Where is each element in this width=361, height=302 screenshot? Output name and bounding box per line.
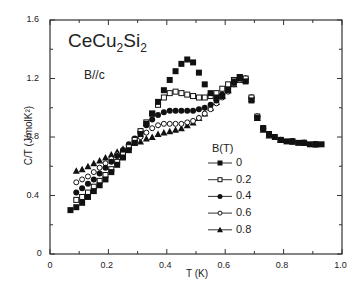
y-tick-label: 0.4 xyxy=(26,190,39,200)
series-0 xyxy=(67,56,324,213)
y-tick-label: 0.8 xyxy=(26,131,39,141)
legend-item-label: 0.6 xyxy=(236,206,251,218)
x-tick-label: 0.8 xyxy=(276,260,289,270)
x-axis-label: T (K) xyxy=(186,268,208,279)
data-points xyxy=(67,56,324,213)
x-tick-label: 1.0 xyxy=(334,260,347,270)
field-direction-annotation: B//c xyxy=(84,68,105,82)
y-tick-label: 0 xyxy=(37,248,42,258)
y-tick-label: 1.6 xyxy=(26,14,39,24)
x-tick-label: 0 xyxy=(47,260,52,270)
legend-title: B(T) xyxy=(212,142,233,154)
x-tick-label: 0.2 xyxy=(101,260,114,270)
chart-canvas xyxy=(0,0,361,302)
legend-item-label: 0.4 xyxy=(236,189,251,201)
y-tick-label: 1.2 xyxy=(26,73,39,83)
legend-item-label: 0 xyxy=(236,156,242,168)
legend-markers xyxy=(208,161,232,233)
x-tick-label: 0.6 xyxy=(217,260,230,270)
compound-label: CeCu2Si2 xyxy=(68,30,147,55)
legend-item-label: 0.8 xyxy=(236,223,251,235)
legend-item-label: 0.2 xyxy=(236,173,251,185)
x-tick-label: 0.4 xyxy=(159,260,172,270)
axes xyxy=(50,20,342,254)
